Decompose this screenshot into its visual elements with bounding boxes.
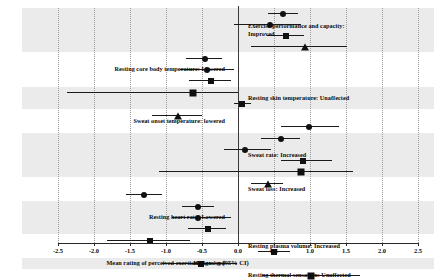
confidence-interval-line <box>159 171 353 172</box>
x-axis-tick <box>130 243 131 246</box>
x-axis-tick-label: 0.0 <box>234 247 242 254</box>
x-axis-tick-label: -0.5 <box>197 247 207 254</box>
x-axis-tick <box>238 243 239 246</box>
study-row <box>0 223 442 234</box>
x-axis-tick <box>418 243 419 246</box>
plot-area: Exercise performance and capacity: Impro… <box>0 0 442 243</box>
x-axis-tick-label: 1.5 <box>342 247 350 254</box>
study-row <box>0 41 442 52</box>
study-row <box>0 75 442 86</box>
study-row <box>0 8 442 19</box>
effect-size-marker-circle <box>202 56 208 62</box>
x-axis: -2.5-2.0-1.5-1.0-0.50.00.51.01.52.02.5 H… <box>0 243 442 280</box>
group-label: Sweat loss: Increased <box>248 185 438 193</box>
forest-plot: Exercise performance and capacity: Impro… <box>0 0 442 280</box>
effect-size-marker-circle <box>141 192 147 198</box>
x-axis-tick <box>382 243 383 246</box>
group-label: Sweat onset temperature: lowered <box>10 117 225 125</box>
effect-size-marker-circle <box>195 204 201 210</box>
effect-size-marker-square <box>298 168 305 175</box>
group-label: Exercise performance and capacity: Impro… <box>248 22 438 38</box>
group-label: Sweat rate: Increased <box>248 151 438 159</box>
x-axis-tick <box>346 243 347 246</box>
x-axis-title: Hedges' g (95% CI) <box>0 259 442 266</box>
x-axis-tick-label: -1.0 <box>161 247 171 254</box>
x-axis-tick <box>274 243 275 246</box>
effect-size-marker-square <box>239 101 245 107</box>
x-axis-tick-label: 2.5 <box>414 247 422 254</box>
x-axis-tick <box>202 243 203 246</box>
x-axis-tick <box>58 243 59 246</box>
study-row <box>0 53 442 64</box>
x-axis-tick-label: -2.5 <box>53 247 63 254</box>
x-axis-tick <box>310 243 311 246</box>
effect-size-marker-circle <box>278 136 284 142</box>
effect-size-marker-square <box>205 226 211 232</box>
effect-size-marker-square <box>190 89 197 96</box>
confidence-interval-line <box>281 160 331 161</box>
group-label: Resting core body temperature: Lowered <box>10 65 225 73</box>
confidence-interval-line <box>67 92 238 93</box>
x-axis-tick-label: 2.0 <box>378 247 386 254</box>
effect-size-marker-square <box>208 78 214 84</box>
effect-size-marker-triangle <box>301 43 309 50</box>
x-axis-tick-label: 1.0 <box>306 247 314 254</box>
x-axis-tick-label: -1.5 <box>125 247 135 254</box>
effect-size-marker-circle <box>280 11 286 17</box>
effect-size-marker-circle <box>306 124 312 130</box>
group-label: Resting skin temperature: Unaffected <box>248 94 438 102</box>
group-label: Resting heart rate: Lowered <box>10 213 225 221</box>
confidence-interval-line <box>251 46 347 47</box>
x-axis-tick <box>94 243 95 246</box>
x-axis-tick-label: -2.0 <box>89 247 99 254</box>
x-axis-tick <box>166 243 167 246</box>
study-row <box>0 133 442 144</box>
x-axis-tick-label: 0.5 <box>270 247 278 254</box>
study-row <box>0 166 442 177</box>
study-row <box>0 201 442 212</box>
